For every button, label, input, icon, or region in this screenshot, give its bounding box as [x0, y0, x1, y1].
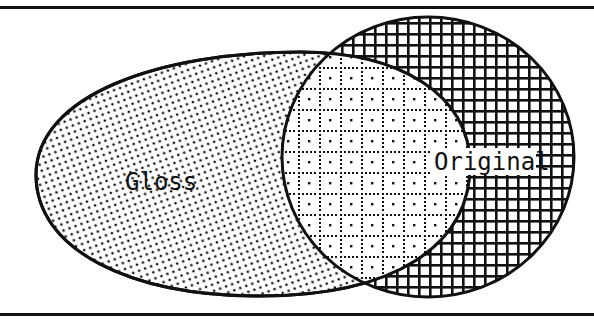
venn-diagram: Gloss Original: [0, 0, 594, 323]
top-rule: [0, 6, 594, 9]
label-original: Original: [434, 148, 550, 176]
bottom-rule: [0, 313, 594, 316]
label-gloss: Gloss: [125, 168, 197, 196]
